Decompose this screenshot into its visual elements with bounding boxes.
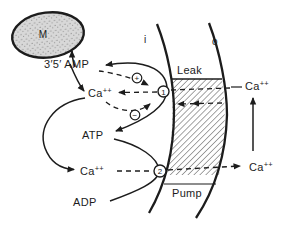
inner-membrane-line (149, 24, 174, 213)
adp-label: ADP (73, 196, 97, 208)
membrane-hatched-band (167, 79, 225, 175)
upper-ca-to-lower-ca-curve-arrow (43, 98, 85, 170)
extracellular-ca-lower-label: Ca++ (249, 160, 273, 174)
mitochondrion-label: M (39, 29, 48, 40)
diagram-canvas: M 1 2 + − 3′5′ AMP Ca++ ATP Ca++ ADP i o… (0, 0, 284, 225)
cytosolic-ca-lower-label: Ca++ (80, 164, 104, 178)
atp-label: ATP (82, 129, 103, 141)
site1-to-cytosolic-ca-dashed-arrow (119, 92, 157, 93)
stimulation-plus-icon: + (132, 73, 142, 83)
svg-text:−: − (133, 111, 138, 120)
inside-label: i (144, 34, 147, 45)
atp-site2-adp-curve (110, 139, 159, 201)
pump-label: Pump (172, 187, 202, 199)
cyclic-amp-label: 3′5′ AMP (44, 58, 89, 70)
mitochondrion-shape (10, 8, 87, 61)
inhibition-minus-icon: − (130, 110, 140, 120)
extracellular-ca-upper-label: Ca++ (245, 79, 269, 93)
leak-site-1-number: 1 (161, 88, 166, 97)
membrane-calcium-diagram: M 1 2 + − 3′5′ AMP Ca++ ATP Ca++ ADP i o… (0, 0, 284, 225)
outside-label: o (212, 36, 218, 47)
leak-site-1-badge: 1 (158, 86, 169, 97)
leak-label: Leak (177, 64, 202, 76)
pump-site-2-badge: 2 (154, 165, 166, 177)
pump-site-2-number: 2 (158, 167, 163, 176)
cytosolic-ca-upper-label: Ca++ (88, 86, 112, 100)
svg-text:+: + (135, 74, 140, 83)
ca-inhibits-site1-dashed-arrow (106, 102, 150, 111)
